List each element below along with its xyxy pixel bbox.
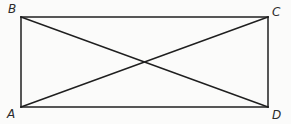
vertex-label-b: B [8, 3, 16, 15]
rectangle-diagram-canvas [0, 0, 291, 124]
vertex-label-d: D [272, 109, 281, 121]
vertex-label-c: C [272, 6, 280, 18]
vertex-label-a: A [7, 108, 15, 120]
diagonals [21, 17, 268, 107]
geometry-figure: B C A D [0, 0, 291, 124]
